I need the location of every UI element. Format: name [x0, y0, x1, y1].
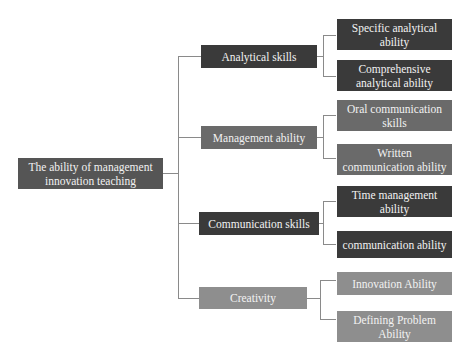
connector-child-2-1	[323, 115, 336, 116]
leaf-label: Innovation Ability	[352, 277, 437, 291]
connector-main-vertical	[178, 56, 179, 299]
leaf-label: Specific analytical ability	[340, 21, 449, 49]
connector-child-4-1	[320, 280, 336, 281]
leaf-label: Time management ability	[340, 188, 449, 216]
leaf-node-comprehensive-analytical-ability: Comprehensive analytical ability	[337, 60, 452, 91]
branch-label: Communication skills	[208, 217, 309, 231]
branch-node-management-ability: Management ability	[201, 126, 317, 149]
root-node-label: The ability of management innovation tea…	[21, 160, 160, 188]
branch-node-creativity: Creativity	[199, 287, 307, 309]
leaf-node-oral-communication-skills: Oral communication skills	[337, 100, 452, 131]
connector-child-1-2	[323, 76, 336, 77]
connector-branch-4	[178, 298, 201, 299]
branch-node-analytical-skills: Analytical skills	[201, 45, 317, 68]
connector-sub-4	[307, 298, 321, 299]
connector-child-4-2	[320, 319, 336, 320]
connector-sub-4-vertical	[320, 280, 321, 320]
connector-child-1-1	[323, 35, 336, 36]
leaf-label: Written communication ability	[340, 146, 449, 174]
leaf-label: Defining Problem Ability	[340, 313, 449, 341]
leaf-label: Oral communication skills	[340, 102, 449, 130]
connector-sub-3-vertical	[323, 201, 324, 245]
leaf-node-innovation-ability: Innovation Ability	[337, 272, 452, 295]
branch-label: Management ability	[213, 131, 305, 145]
leaf-node-specific-analytical-ability: Specific analytical ability	[337, 19, 452, 50]
leaf-node-communication-ability: communication ability	[337, 231, 452, 258]
leaf-label: communication ability	[343, 238, 447, 252]
connector-child-2-2	[323, 158, 336, 159]
leaf-label: Comprehensive analytical ability	[340, 62, 449, 90]
connector-branch-1	[178, 56, 201, 57]
root-node: The ability of management innovation tea…	[18, 158, 163, 189]
connector-child-3-1	[323, 201, 336, 202]
branch-label: Analytical skills	[221, 50, 296, 64]
connector-child-3-2	[323, 244, 336, 245]
leaf-node-defining-problem-ability: Defining Problem Ability	[337, 311, 452, 342]
branch-label: Creativity	[230, 291, 276, 305]
connector-root	[163, 173, 178, 174]
leaf-node-written-communication-ability: Written communication ability	[337, 144, 452, 175]
leaf-node-time-management-ability: Time management ability	[337, 186, 452, 217]
connector-branch-3	[178, 223, 201, 224]
connector-branch-2	[178, 137, 201, 138]
connector-sub-2-vertical	[323, 115, 324, 159]
connector-sub-1-vertical	[323, 35, 324, 77]
branch-node-communication-skills: Communication skills	[199, 212, 319, 235]
